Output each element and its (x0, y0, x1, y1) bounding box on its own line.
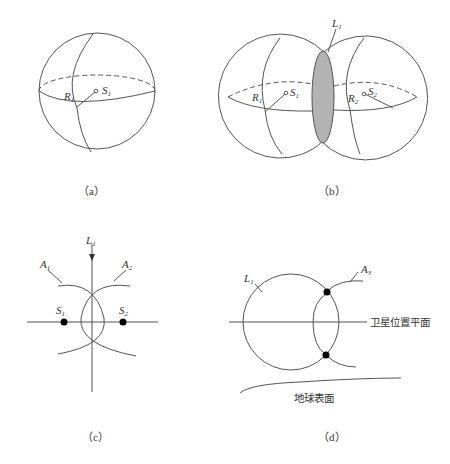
leader-A2 (114, 270, 126, 281)
label-S1: S1 (290, 86, 299, 100)
label-A3: A3 (360, 263, 372, 277)
label-R2: R2 (347, 92, 359, 106)
label-S2: S2 (119, 304, 129, 318)
arc-A3-bottom (326, 355, 356, 367)
label-L1: L1 (243, 272, 254, 286)
equator-left-front (228, 97, 312, 111)
label-R1: R1 (251, 91, 262, 105)
sphere-left (218, 34, 324, 158)
panel-b: L1 R1 S1 R2 S2 （b） (218, 17, 427, 197)
label-S2: S2 (368, 85, 378, 99)
meridian (72, 34, 93, 152)
caption-c: （c） (82, 431, 109, 443)
label-L1: L1 (85, 234, 96, 248)
label-A2: A2 (121, 258, 133, 272)
label-S1: S1 (56, 304, 65, 318)
equator-back (39, 75, 155, 91)
label-L1: L1 (331, 17, 342, 31)
arrow-down-icon (89, 254, 95, 261)
panel-d: L1 A3 卫星位置平面 地球表面 （d） (229, 263, 430, 443)
satellite-point-S2 (120, 319, 127, 326)
label-satellite-plane: 卫星位置平面 (370, 316, 430, 328)
equator-left-back (228, 82, 312, 97)
label-S1: S1 (102, 84, 111, 98)
caption-b: （b） (318, 185, 346, 197)
intersection-point-top (324, 289, 331, 296)
satellite-point-2 (362, 92, 366, 96)
satellite-point-S1 (61, 319, 68, 326)
arc-A2 (81, 285, 136, 356)
arc-A3-inner (313, 293, 327, 355)
caption-a: （a） (78, 185, 105, 197)
figure-canvas: R1 S1 （a） L1 R1 S1 R2 S2 （b） L1 A1 (0, 0, 450, 464)
panel-c: L1 A1 A2 S1 S2 （c） (27, 234, 158, 443)
label-A1: A1 (39, 258, 50, 272)
intersection-point-bottom (323, 352, 330, 359)
satellite-point (94, 89, 98, 93)
panel-a: R1 S1 （a） (39, 33, 155, 197)
leader-L1 (328, 29, 336, 52)
meridian-left (262, 38, 282, 154)
label-earth-surface: 地球表面 (294, 392, 334, 404)
radius-line (77, 92, 95, 107)
satellite-point-1 (284, 91, 288, 95)
intersection-ellipse (312, 51, 334, 143)
arc-A3-top (327, 281, 363, 291)
caption-d: （d） (318, 431, 346, 443)
earth-surface-curve (240, 378, 401, 393)
